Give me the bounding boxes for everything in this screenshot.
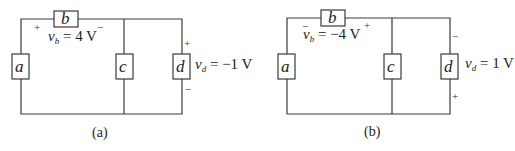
vb-label: vb = 4 V — [48, 28, 97, 46]
element-b-label: b — [61, 9, 70, 28]
element-a-label: a — [281, 57, 290, 76]
element-d-label: d — [176, 57, 185, 76]
circuit-a: b a c d + − vb = 4 V + − vd = −1 V (a) — [12, 9, 253, 141]
vb-plus-sign: + — [364, 19, 370, 31]
element-d-label: d — [444, 57, 453, 76]
element-b-label: b — [328, 8, 337, 27]
element-c-label: c — [387, 57, 395, 76]
caption-a: (a) — [92, 125, 108, 141]
element-a-label: a — [15, 57, 24, 76]
vd-plus-sign: + — [452, 90, 458, 102]
vd-minus-sign: − — [452, 30, 458, 42]
vd-plus-sign: + — [184, 37, 190, 49]
vb-label: vb = −4 V — [303, 26, 361, 44]
caption-b: (b) — [364, 124, 381, 140]
vd-label: vd = 1 V — [465, 55, 514, 73]
vb-minus-sign: − — [97, 21, 103, 33]
circuit-a-wires — [21, 19, 182, 114]
element-c-label: c — [119, 57, 127, 76]
vd-minus-sign: − — [185, 83, 191, 95]
vb-plus-sign: + — [34, 21, 40, 33]
circuit-b: b a c d − + vb = −4 V − + vd = 1 V (b) — [278, 8, 514, 140]
vd-label: vd = −1 V — [195, 56, 253, 74]
circuit-b-wires — [287, 18, 450, 114]
circuit-figure: b a c d + − vb = 4 V + − vd = −1 V (a) b… — [0, 0, 515, 151]
